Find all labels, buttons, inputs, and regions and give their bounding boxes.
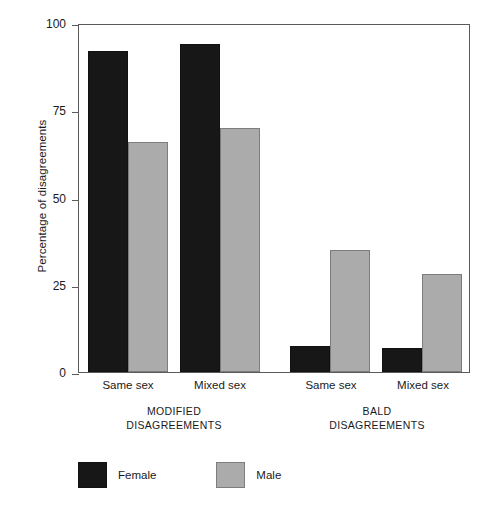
legend-swatch-female-icon [78,462,107,488]
x-tick-label-modified-mixed-sex: Mixed sex [194,379,246,391]
y-tick-label: 25 [53,279,66,293]
bar-chart: Percentage of disagreements 100 75 50 25… [0,0,493,506]
bars-layer [79,25,469,372]
y-tick-mark [72,374,79,375]
bar-female-modified-mixed-sex [180,44,220,372]
section-caption-modified: MODIFIED DISAGREEMENTS [126,404,222,432]
section-caption-modified-line1: MODIFIED [126,404,222,418]
x-tick-label-bald-same-sex: Same sex [305,379,356,391]
section-caption-bald: BALD DISAGREEMENTS [329,404,425,432]
x-tick-label-bald-mixed-sex: Mixed sex [397,379,449,391]
legend-item-female: Female [78,462,156,488]
y-tick-mark [72,112,79,113]
section-caption-bald-line1: BALD [329,404,425,418]
y-tick-label: 50 [53,192,66,206]
bar-male-bald-same-sex [330,250,370,372]
y-axis-title: Percentage of disagreements [36,71,48,321]
section-caption-modified-line2: DISAGREEMENTS [126,418,222,432]
y-tick-label: 0 [59,366,66,380]
bar-female-modified-same-sex [88,51,128,372]
bar-female-bald-mixed-sex [382,348,422,372]
y-tick-mark [72,25,79,26]
legend-label-female: Female [118,469,156,481]
section-caption-bald-line2: DISAGREEMENTS [329,418,425,432]
bar-male-bald-mixed-sex [422,274,462,372]
legend: Female Male [78,462,281,488]
bar-male-modified-same-sex [128,142,168,372]
bar-male-modified-mixed-sex [220,128,260,372]
legend-swatch-male-icon [216,462,245,488]
y-tick-label: 100 [46,17,66,31]
legend-label-male: Male [256,469,281,481]
y-tick-mark [72,200,79,201]
plot-area: 100 75 50 25 0 [78,24,470,373]
y-tick-mark [72,287,79,288]
bar-female-bald-same-sex [290,346,330,372]
x-tick-label-modified-same-sex: Same sex [102,379,153,391]
legend-item-male: Male [216,462,281,488]
y-tick-label: 75 [53,104,66,118]
